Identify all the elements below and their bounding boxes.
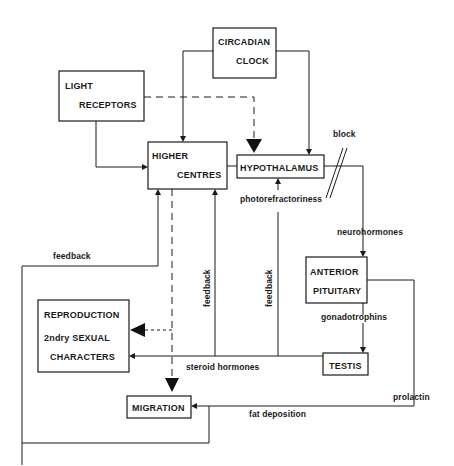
edge-testis-to-reproduction — [129, 353, 323, 359]
edge-pituitary-to-migration — [191, 280, 414, 409]
node-circadian-clock[interactable]: CIRCADIAN CLOCK — [213, 28, 276, 78]
node-hypothalamus[interactable]: HYPOTHALAMUS — [237, 155, 324, 178]
label-feedback-right: feedback — [264, 269, 274, 307]
edge-circadian-to-hypothalamus — [276, 51, 312, 155]
node-hypothalamus-label: HYPOTHALAMUS — [240, 163, 318, 173]
endocrine-diagram: CIRCADIAN CLOCK LIGHT RECEPTORS HIGHER C… — [0, 0, 454, 466]
node-testis[interactable]: TESTIS — [323, 353, 368, 375]
node-higher-centres-label-2: CENTRES — [177, 170, 221, 180]
node-circadian-clock-label-2: CLOCK — [236, 56, 269, 66]
edge-higher-centres-to-migration — [165, 189, 179, 392]
node-light-receptors[interactable]: LIGHT RECEPTORS — [59, 71, 144, 121]
node-light-receptors-label-1: LIGHT — [65, 81, 93, 91]
edge-feedback-mid-to-higher-centres — [212, 189, 218, 356]
node-higher-centres[interactable]: HIGHER CENTRES — [148, 142, 227, 189]
label-steroid-hormones: steroid hormones — [186, 362, 260, 372]
node-anterior-pituitary-label-1: ANTERIOR — [310, 267, 359, 277]
node-migration[interactable]: MIGRATION — [127, 396, 191, 418]
label-gonadotrophins: gonadotrophins — [321, 312, 387, 322]
label-fat-deposition: fat deposition — [249, 409, 306, 419]
label-block: block — [333, 129, 356, 139]
label-feedback-left: feedback — [53, 251, 91, 261]
label-prolactin: prolactin — [393, 392, 430, 402]
block-marker-icon — [326, 148, 347, 198]
edge-hypothalamus-to-pituitary — [324, 166, 366, 257]
label-neurohormones: neurohormones — [337, 227, 403, 237]
node-migration-label: MIGRATION — [132, 403, 185, 413]
node-anterior-pituitary-label-2: PITUITARY — [313, 286, 361, 296]
node-higher-centres-label-1: HIGHER — [152, 151, 189, 161]
edge-light-receptors-to-higher-centres — [96, 121, 148, 170]
label-feedback-mid: feedback — [202, 269, 212, 307]
node-testis-label: TESTIS — [329, 361, 362, 371]
node-reproduction-label-2: 2ndry SEXUAL — [44, 333, 110, 343]
edge-photorefractoriness-to-hypothalamus — [275, 178, 281, 356]
edge-higher-centres-to-reproduction — [130, 323, 172, 337]
node-light-receptors-label-2: RECEPTORS — [79, 100, 137, 110]
label-photorefractoriness: photorefractoriness — [240, 194, 322, 204]
node-reproduction[interactable]: REPRODUCTION 2ndry SEXUAL CHARACTERS — [38, 300, 129, 372]
node-circadian-clock-label-1: CIRCADIAN — [218, 37, 270, 47]
node-reproduction-label-3: CHARACTERS — [50, 352, 115, 362]
node-anterior-pituitary[interactable]: ANTERIOR PITUITARY — [306, 257, 367, 303]
node-reproduction-label-1: REPRODUCTION — [44, 310, 119, 320]
edge-pituitary-to-testis — [360, 303, 366, 353]
